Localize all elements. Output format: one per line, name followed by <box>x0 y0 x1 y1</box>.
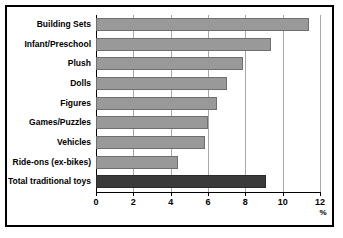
category-label: Building Sets <box>0 15 91 35</box>
bar-row <box>96 133 320 153</box>
category-label: Infant/Preschool <box>0 35 91 55</box>
x-tick-label-10: 10 <box>278 197 288 207</box>
category-label: Total traditional toys <box>0 172 91 192</box>
category-axis-labels: Building SetsInfant/PreschoolPlushDollsF… <box>0 15 91 192</box>
x-tick-label-2: 2 <box>131 197 136 207</box>
x-tick-8 <box>245 192 246 196</box>
bar <box>96 156 178 169</box>
bar <box>96 175 266 188</box>
gridline-12 <box>320 15 321 192</box>
bar <box>96 116 208 129</box>
bar <box>96 77 227 90</box>
bar-row <box>96 35 320 55</box>
bar-row <box>96 74 320 94</box>
category-label: Figures <box>0 94 91 114</box>
bar <box>96 38 271 51</box>
category-label: Dolls <box>0 74 91 94</box>
bar-row <box>96 172 320 192</box>
bar <box>96 18 309 31</box>
x-tick-label-12: 12 <box>315 197 325 207</box>
bar-row <box>96 54 320 74</box>
x-tick-label-6: 6 <box>205 197 210 207</box>
x-tick-12 <box>320 192 321 196</box>
category-label: Plush <box>0 54 91 74</box>
chart-frame: Building SetsInfant/PreschoolPlushDollsF… <box>5 5 334 227</box>
bar <box>96 97 217 110</box>
x-tick-10 <box>283 192 284 196</box>
bar-row <box>96 15 320 35</box>
x-tick-4 <box>171 192 172 196</box>
x-tick-label-0: 0 <box>93 197 98 207</box>
x-axis-unit-label: % <box>319 208 326 217</box>
category-label: Vehicles <box>0 133 91 153</box>
x-tick-2 <box>133 192 134 196</box>
bar-row <box>96 94 320 114</box>
bar <box>96 57 243 70</box>
category-label: Ride-ons (ex-bikes) <box>0 153 91 173</box>
plot-area: Building SetsInfant/PreschoolPlushDollsF… <box>96 15 320 192</box>
bar <box>96 136 205 149</box>
x-tick-label-8: 8 <box>243 197 248 207</box>
bar-row <box>96 113 320 133</box>
bar-row <box>96 153 320 173</box>
category-label: Games/Puzzles <box>0 113 91 133</box>
x-tick-0 <box>96 192 97 196</box>
x-tick-6 <box>208 192 209 196</box>
x-tick-label-4: 4 <box>168 197 173 207</box>
